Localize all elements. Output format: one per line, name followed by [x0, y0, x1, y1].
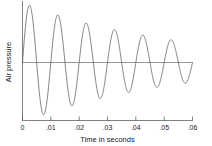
y-axis-title: Air pressure [4, 42, 13, 82]
x-tick-label-6: .06 [188, 124, 198, 131]
x-tick-label-0: 0 [21, 124, 25, 131]
x-tick-label-1: .01 [46, 124, 56, 131]
air-pressure-chart: 0 .01 .02 .03 .04 .05 .06 Time in second… [0, 0, 212, 146]
x-axis-title: Time in seconds [80, 135, 135, 144]
x-tick-label-2: .02 [74, 124, 84, 131]
x-tick-label-4: .04 [131, 124, 141, 131]
x-tick-label-5: .05 [159, 124, 169, 131]
x-tick-label-3: .03 [103, 124, 113, 131]
chart-svg: 0 .01 .02 .03 .04 .05 .06 Time in second… [0, 0, 212, 146]
